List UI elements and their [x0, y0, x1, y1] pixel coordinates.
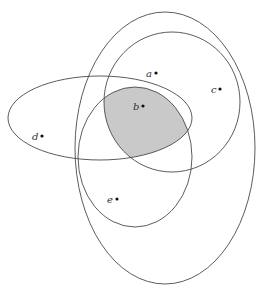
point-label-d: d — [32, 131, 38, 142]
point-d: d — [32, 131, 44, 142]
point-e: e — [107, 194, 119, 205]
point-label-a: a — [146, 68, 152, 79]
point-dot-b — [141, 104, 144, 107]
point-dot-c — [218, 87, 221, 90]
point-label-c: c — [211, 84, 217, 95]
point-label-e: e — [107, 194, 113, 205]
point-dot-a — [154, 71, 157, 74]
point-dot-e — [115, 197, 118, 200]
point-label-b: b — [133, 101, 139, 112]
point-a: a — [146, 68, 158, 79]
venn-diagram: a b c d e — [0, 0, 261, 296]
point-dot-d — [40, 134, 43, 137]
point-c: c — [211, 84, 222, 95]
